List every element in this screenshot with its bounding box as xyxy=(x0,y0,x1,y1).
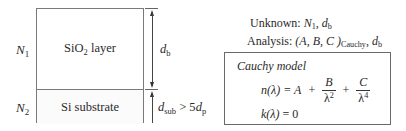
sio2-layer: SiO2 layer xyxy=(37,9,143,90)
sio2-layer-label: SiO2 layer xyxy=(37,41,143,56)
interface-tick xyxy=(145,89,158,90)
unknown-line: Unknown: N1, db xyxy=(250,16,332,31)
n-equation: n(λ) = A + B λ2 + C λ4 xyxy=(261,75,373,105)
si-substrate-layer: Si substrate xyxy=(37,90,143,124)
cauchy-model-box: Cauchy model n(λ) = A + B λ2 + C λ4 k(λ)… xyxy=(224,52,391,125)
k-equation: k(λ) = 0 xyxy=(261,107,298,122)
c-fraction: C λ4 xyxy=(356,76,370,104)
analysis-line: Analysis: (A, B, C )Cauchy, db xyxy=(247,34,382,49)
si-substrate-label: Si substrate xyxy=(37,100,143,115)
layer-stack: SiO2 layer Si substrate xyxy=(36,8,144,123)
thickness-dimension-line xyxy=(152,12,153,86)
arrow-down-icon xyxy=(150,82,154,88)
substrate-dimension-line xyxy=(152,95,153,123)
top-tick xyxy=(145,8,158,9)
n1-label: N1 xyxy=(16,42,29,58)
substrate-thickness-label: dsub > 5dp xyxy=(158,100,206,115)
model-title: Cauchy model xyxy=(237,59,306,74)
n2-label: N2 xyxy=(16,100,29,116)
film-thickness-label: db xyxy=(160,42,171,57)
b-fraction: B λ2 xyxy=(322,76,335,104)
